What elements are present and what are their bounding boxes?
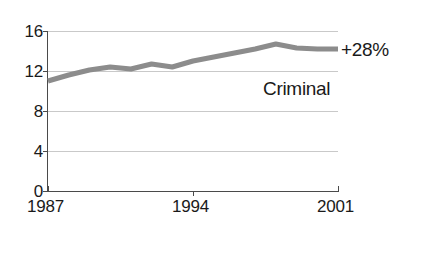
- series-label-criminal: Criminal: [263, 79, 330, 98]
- y-axis-labels: 16 12 8 4 0: [0, 0, 43, 256]
- y-tick-12: [43, 71, 48, 72]
- x-tick-1987: [48, 186, 49, 192]
- gridline-4: [48, 151, 338, 152]
- y-tick-4: [43, 151, 48, 152]
- y-axis-label-8: 8: [3, 103, 43, 120]
- y-axis-label-4: 4: [3, 143, 43, 160]
- line-chart: 16 12 8 4 0 1987 1994 2001 +28% Criminal: [0, 0, 423, 256]
- gridline-12: [48, 71, 338, 72]
- y-tick-16: [43, 31, 48, 32]
- plot-area: [48, 31, 338, 191]
- gridline-16: [48, 31, 338, 32]
- x-axis-label-2001: 2001: [317, 198, 354, 215]
- x-tick-1994: [193, 191, 194, 196]
- gridline-8: [48, 111, 338, 112]
- x-axis-label-1987: 1987: [27, 198, 64, 215]
- y-axis-label-12: 12: [3, 63, 43, 80]
- growth-annotation: +28%: [341, 40, 389, 59]
- x-axis-label-1994: 1994: [172, 198, 209, 215]
- x-tick-2001: [338, 186, 339, 192]
- y-tick-8: [43, 111, 48, 112]
- y-axis-label-16: 16: [3, 23, 43, 40]
